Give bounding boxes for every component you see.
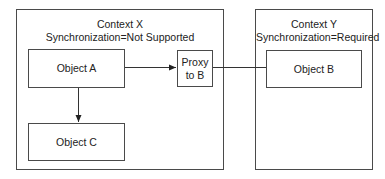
context-y-title: Context Y [256,18,372,31]
context-y-subtitle: Synchronization=Required [256,31,372,44]
object-b-label: Object B [294,63,334,76]
context-y-container: Context Y Synchronization=Required [255,9,373,170]
proxy-to-b-box: Proxy to B [177,50,213,87]
object-a-label: Object A [57,62,97,75]
context-x-subtitle: Synchronization=Not Supported [17,31,223,44]
object-a-box: Object A [28,49,125,88]
proxy-label-line2: to B [186,69,205,82]
object-b-box: Object B [266,50,362,88]
object-c-label: Object C [56,136,97,149]
proxy-label-line1: Proxy [182,56,209,69]
context-x-title: Context X [17,18,223,31]
object-c-box: Object C [28,123,125,161]
